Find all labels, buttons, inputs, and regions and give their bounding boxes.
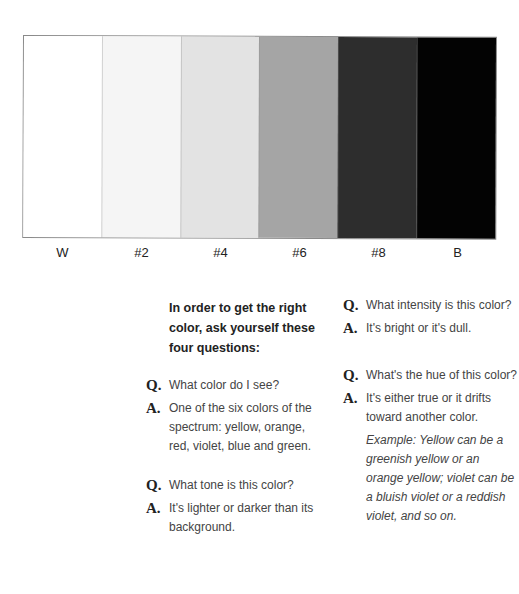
swatch-8 xyxy=(338,37,418,238)
intro-heading: In order to get the right color, ask you… xyxy=(169,298,319,358)
swatch-4 xyxy=(180,37,260,238)
q-mark: Q. xyxy=(146,476,169,495)
swatch-label: B xyxy=(418,245,497,260)
answer-text: It's lighter or darker than its backgrou… xyxy=(169,499,326,537)
question-text: What color do I see? xyxy=(169,376,326,395)
swatch-6 xyxy=(259,37,339,238)
qa-block-3: Q.What intensity is this color? A.It's b… xyxy=(343,296,519,342)
swatch-black xyxy=(416,37,496,238)
qa-block-1: Q.What color do I see? A.One of the six … xyxy=(146,376,326,460)
answer-text: It's bright or it's dull. xyxy=(366,319,519,338)
q-mark: Q. xyxy=(343,366,366,385)
a-mark: A. xyxy=(146,499,169,537)
answer-text: It's either true or it drifts toward ano… xyxy=(366,389,519,427)
question-text: What tone is this color? xyxy=(169,476,326,495)
answer-text: One of the six colors of the spectrum: y… xyxy=(169,399,326,456)
swatch-label: #4 xyxy=(181,245,260,260)
question-text: What's the hue of this color? xyxy=(366,366,519,385)
swatch-white xyxy=(23,36,102,237)
swatch-label: W xyxy=(23,245,102,260)
qa-block-2: Q.What tone is this color? A.It's lighte… xyxy=(146,476,326,541)
q-mark: Q. xyxy=(146,376,169,395)
a-mark: A. xyxy=(343,319,366,338)
question-text: What intensity is this color? xyxy=(366,296,519,315)
swatch-label: #8 xyxy=(339,245,418,260)
swatch-label: #2 xyxy=(102,245,181,260)
grayscale-strip xyxy=(22,35,497,240)
example-text: Example: Yellow can be a greenish yellow… xyxy=(366,431,519,526)
a-mark: A. xyxy=(146,399,169,456)
qa-block-4: Q.What's the hue of this color? A.It's e… xyxy=(343,366,519,526)
swatch-2 xyxy=(101,36,181,237)
swatch-label: #6 xyxy=(260,245,339,260)
q-mark: Q. xyxy=(343,296,366,315)
a-mark: A. xyxy=(343,389,366,427)
swatch-labels: W #2 #4 #6 #8 B xyxy=(23,245,497,260)
